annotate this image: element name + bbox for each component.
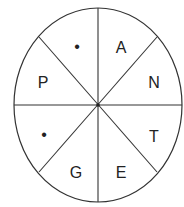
puzzle-wheel: A N T E G • P • xyxy=(0,0,184,207)
segment-label-right-lower: T xyxy=(149,128,159,145)
segment-label-right-upper: N xyxy=(148,74,160,91)
segment-label-top-right: A xyxy=(116,39,127,56)
segment-label-bottom-left: G xyxy=(70,164,82,181)
center-point xyxy=(96,103,100,107)
segment-label-left-upper: P xyxy=(38,74,49,91)
segment-label-top-left: • xyxy=(74,38,80,55)
segment-label-bottom-right: E xyxy=(116,164,127,181)
segment-label-left-lower: • xyxy=(41,126,47,143)
